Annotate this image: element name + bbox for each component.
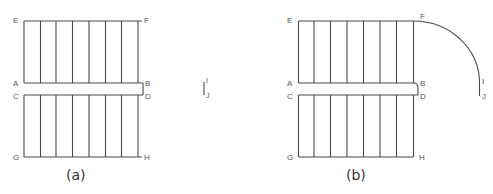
label-b: B [145, 79, 150, 88]
edge-bd-rounded [299, 83, 419, 95]
label-c: C [13, 92, 19, 101]
label-a: A [287, 79, 293, 88]
caption-a: (a) [66, 167, 86, 183]
figure-b: E F A B C D G H I J (b) [287, 12, 486, 183]
label-j: J [482, 92, 486, 101]
label-i: I [482, 77, 484, 86]
label-g: G [13, 153, 19, 162]
label-d: D [420, 92, 426, 101]
label-h: H [144, 153, 150, 162]
label-d: D [145, 92, 151, 101]
label-j: J [206, 92, 210, 99]
label-f: F [420, 12, 425, 21]
label-i: I [206, 77, 208, 84]
label-f: F [144, 16, 149, 25]
label-e: E [13, 16, 18, 25]
figure-a: E F A B C D G H I J (a) [13, 16, 210, 183]
label-h: H [419, 153, 425, 162]
label-g: G [287, 153, 293, 162]
caption-b: (b) [346, 167, 366, 183]
label-e: E [287, 16, 292, 25]
label-b: B [420, 79, 425, 88]
label-a: A [13, 79, 19, 88]
label-c: C [287, 92, 293, 101]
staircase-diagram: E F A B C D G H I J (a) [0, 0, 493, 194]
